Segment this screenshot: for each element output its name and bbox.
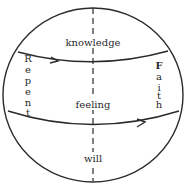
repent-letter: t (26, 107, 30, 118)
faith-letter: F (155, 60, 162, 71)
upper-arrow-icon (50, 57, 58, 63)
repent-letter: e (25, 64, 31, 75)
sphere-diagram: knowledge feeling will R e p e n t F a i… (0, 0, 185, 187)
repent-letter: e (25, 86, 31, 97)
feeling-label: feeling (76, 99, 111, 110)
faith-vertical-label: F a i t h (155, 60, 162, 110)
knowledge-label: knowledge (66, 37, 121, 48)
will-label: will (84, 153, 102, 164)
repent-vertical-label: R e p e n t (24, 53, 32, 118)
repent-letter: R (24, 53, 32, 64)
faith-letter: a (156, 71, 162, 82)
repent-letter: p (25, 75, 31, 86)
faith-letter: h (156, 99, 163, 110)
